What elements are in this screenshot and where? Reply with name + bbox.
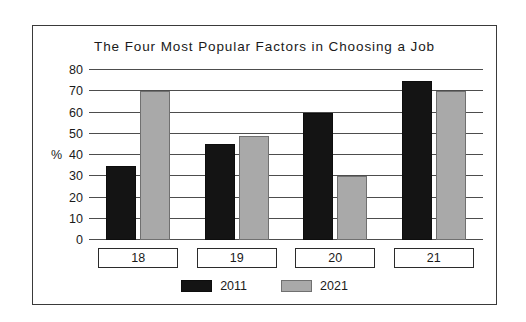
y-tick-label-20: 20 [69,191,83,205]
bar-2011-20 [303,113,333,241]
bar-2021-20 [337,176,367,240]
bar-2011-21 [402,81,432,240]
category-label-18: 18 [98,248,178,268]
category-label-19: 19 [197,248,277,268]
plot-area: 80706050403020100 [89,70,483,240]
y-tick-label-70: 70 [69,84,83,98]
category-label-20: 20 [295,248,375,268]
y-tick-label-0: 0 [76,233,83,247]
bars-layer [89,70,483,240]
y-tick-label-50: 50 [69,127,83,141]
y-tick-label-80: 80 [69,63,83,77]
category-label-21: 21 [394,248,474,268]
legend-item-2011: 2011 [181,279,247,293]
bar-2021-21 [436,91,466,240]
bar-group-21 [402,70,466,240]
legend-label-2011: 2011 [220,279,247,293]
legend-label-2021: 2021 [320,279,348,293]
bar-2011-19 [205,144,235,240]
bar-group-19 [205,70,269,240]
y-axis-unit-label: % [51,148,62,162]
y-tick-label-30: 30 [69,169,83,183]
bar-2021-18 [140,91,170,240]
chart-title: The Four Most Popular Factors in Choosin… [33,39,496,54]
bar-group-18 [106,70,170,240]
y-tick-label-10: 10 [69,212,83,226]
bar-2011-18 [106,166,136,240]
bar-group-20 [303,70,367,240]
legend-swatch-2011 [181,280,212,292]
chart-legend: 20112021 [33,279,496,293]
y-tick-label-40: 40 [69,148,83,162]
legend-swatch-2021 [281,280,312,292]
legend-item-2021: 2021 [281,279,348,293]
bar-2021-19 [239,136,269,240]
y-tick-label-60: 60 [69,106,83,120]
chart-figure: The Four Most Popular Factors in Choosin… [32,25,497,305]
category-axis: 18192021 [89,248,483,270]
